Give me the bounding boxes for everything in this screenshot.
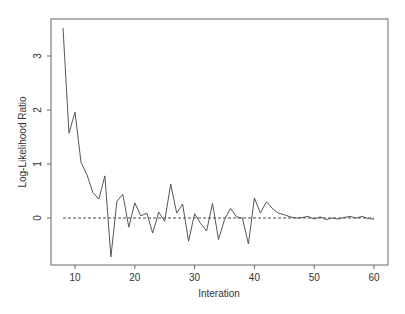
y-tick-label: 3 bbox=[32, 53, 43, 59]
y-tick-label: 1 bbox=[32, 161, 43, 167]
y-tick-label: 0 bbox=[32, 215, 43, 221]
x-tick-label: 30 bbox=[189, 272, 201, 283]
y-axis-ticks: 0123 bbox=[32, 53, 51, 221]
x-tick-label: 60 bbox=[368, 272, 380, 283]
line-chart: 102030405060 0123 Interation Log-Likelih… bbox=[0, 0, 405, 314]
x-tick-label: 10 bbox=[69, 272, 81, 283]
x-axis-ticks: 102030405060 bbox=[69, 265, 380, 283]
plot-frame bbox=[51, 19, 388, 265]
x-axis-label: Interation bbox=[198, 288, 240, 299]
y-axis-label: Log-Likelihood Ratio bbox=[17, 96, 28, 188]
x-tick-label: 40 bbox=[249, 272, 261, 283]
x-tick-label: 50 bbox=[309, 272, 321, 283]
y-tick-label: 2 bbox=[32, 107, 43, 113]
data-line bbox=[63, 28, 374, 257]
x-tick-label: 20 bbox=[129, 272, 141, 283]
